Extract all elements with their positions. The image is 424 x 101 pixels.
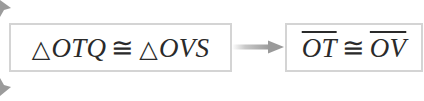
- triangle-symbol: △: [139, 36, 158, 62]
- incoming-arrow-top-icon: [0, 0, 12, 18]
- triangle-1-label: OTQ: [52, 33, 107, 63]
- statement-triangles: △OTQ≅△OVS: [32, 32, 209, 64]
- statement-box-congruent-triangles: △OTQ≅△OVS: [9, 23, 232, 72]
- statement-segments: OT≅OV: [302, 32, 407, 64]
- triangle-symbol: △: [32, 36, 51, 62]
- triangle-2-label: OVS: [159, 33, 209, 63]
- segment-1-label: OT: [302, 33, 337, 63]
- incoming-arrow-bottom-icon: [0, 78, 12, 96]
- segment-2-label: OV: [370, 33, 406, 63]
- congruent-symbol: ≅: [342, 33, 365, 63]
- right-arrow-icon: [232, 40, 285, 54]
- statement-box-congruent-segments: OT≅OV: [285, 23, 423, 72]
- congruent-symbol: ≅: [111, 33, 134, 63]
